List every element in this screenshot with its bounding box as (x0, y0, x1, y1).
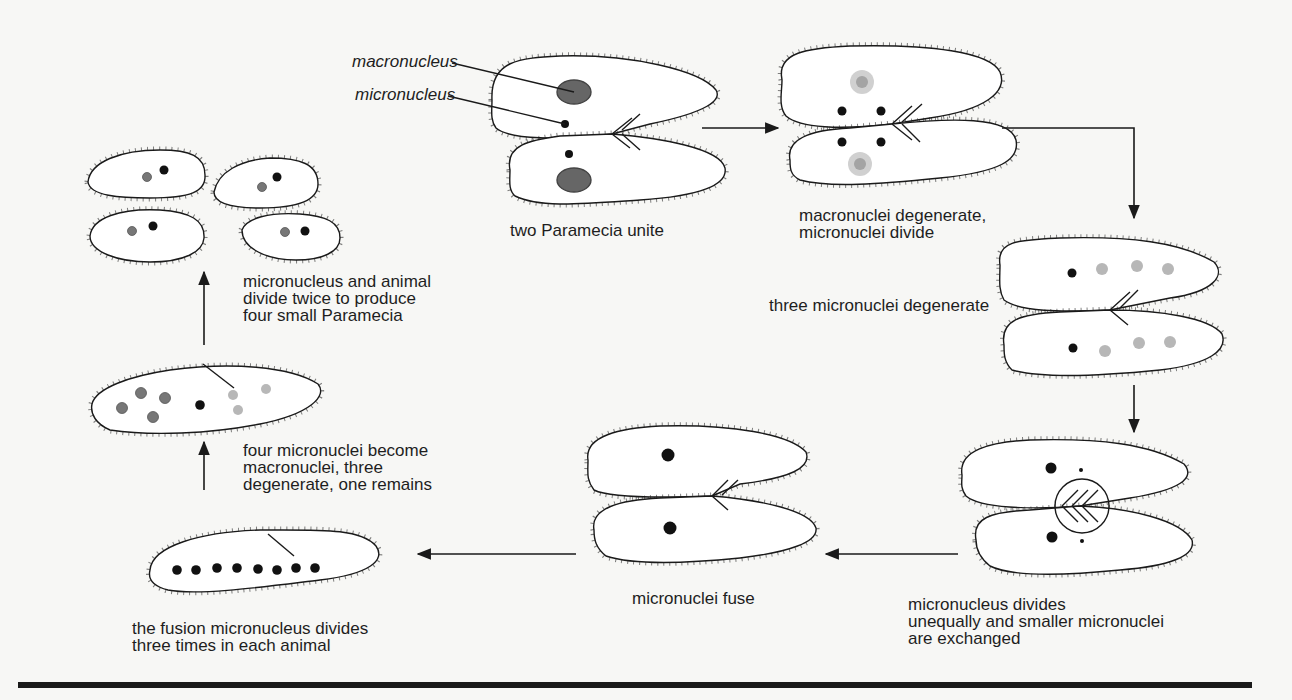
stage-8-four-cells (88, 150, 340, 262)
stage-7-caption: four micronuclei becomemacronuclei, thre… (243, 442, 432, 493)
stage-7-single (92, 364, 321, 433)
stage-6-caption: the fusion micronucleus dividesthree tim… (132, 620, 368, 654)
stage-2-pair (781, 46, 1016, 185)
stage-1-pair (448, 56, 725, 204)
micronucleus-label: micronucleus (355, 86, 455, 103)
stage-8-caption: micronucleus and animaldivide twice to p… (243, 273, 431, 324)
stage-5-caption: micronuclei fuse (632, 590, 755, 607)
bottom-rule-divider (18, 682, 1252, 688)
stage-2-caption: macronuclei degenerate,micronuclei divid… (799, 207, 986, 241)
stage-4-caption: micronucleus dividesunequally and smalle… (908, 596, 1164, 647)
macronucleus-label: macronucleus (352, 53, 458, 70)
stage-4-pair (962, 440, 1193, 574)
stage-6-single (150, 530, 379, 592)
stage-1-caption: two Paramecia unite (510, 222, 664, 239)
stage-5-pair (588, 426, 816, 563)
stage-3-caption: three micronuclei degenerate (769, 297, 989, 314)
stage-3-pair (1000, 238, 1224, 376)
